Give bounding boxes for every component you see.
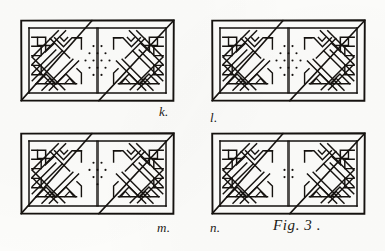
ornament-dot	[283, 169, 285, 171]
panel-label-l: l.	[210, 111, 217, 124]
ornament-dot	[92, 162, 94, 164]
ornament-dot	[108, 59, 110, 61]
ornament-dot	[88, 67, 90, 69]
ornament-dot	[104, 67, 106, 69]
ornament-dot	[96, 183, 98, 185]
ornament-dot	[279, 67, 281, 69]
ornament-dot	[100, 176, 102, 178]
ornament-dot	[84, 59, 86, 61]
ornament-dot	[287, 52, 289, 54]
ornament-dot	[291, 169, 293, 171]
figure-caption: Fig. 3 .	[273, 218, 321, 233]
ornament-dot	[283, 176, 285, 178]
interlace-panel-m	[20, 132, 175, 215]
engraving-plate: k. l. m. n. Fig. 3 .	[0, 0, 385, 251]
ornament-dot	[275, 59, 277, 61]
ornament-dot	[88, 52, 90, 54]
interlace-panel-n	[211, 132, 366, 215]
ornament-dot	[100, 59, 102, 61]
ornament-dot	[283, 45, 285, 47]
ornament-dot	[92, 176, 94, 178]
ornament-dot	[92, 74, 94, 76]
panel-label-m: m.	[157, 221, 170, 234]
interlace-panel-l	[211, 19, 366, 102]
ornament-dot	[92, 45, 94, 47]
ornament-dot	[104, 52, 106, 54]
ornament-dot	[283, 59, 285, 61]
interlace-panel-k	[20, 19, 175, 102]
ornament-dot	[96, 67, 98, 69]
ornament-dot	[295, 67, 297, 69]
ornament-dot	[88, 169, 90, 171]
panel-label-k: k.	[159, 105, 169, 118]
ornament-dot	[291, 176, 293, 178]
ornament-dot	[92, 59, 94, 61]
ornament-dot	[295, 52, 297, 54]
ornament-dot	[100, 162, 102, 164]
ornament-dot	[291, 45, 293, 47]
ornament-dot	[299, 59, 301, 61]
ornament-dot	[283, 74, 285, 76]
ornament-dot	[96, 169, 98, 171]
ornament-dot	[100, 74, 102, 76]
ornament-dot	[291, 74, 293, 76]
panel-label-n: n.	[210, 221, 220, 234]
ornament-dot	[291, 59, 293, 61]
ornament-dot	[96, 52, 98, 54]
ornament-dot	[104, 169, 106, 171]
ornament-dot	[287, 67, 289, 69]
ornament-dot	[100, 45, 102, 47]
ornament-dot	[279, 52, 281, 54]
